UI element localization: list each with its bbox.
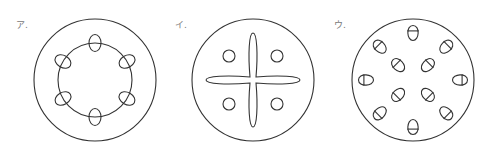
vascular-bundle: [453, 74, 468, 86]
bundle-outline: [408, 26, 418, 41]
vascular-bundle: [389, 85, 408, 104]
figure-i-cross-xylem: [206, 33, 300, 127]
figure-a-dicot-stem: ア.: [16, 19, 156, 141]
bundle-outline: [371, 104, 389, 122]
vascular-bundle: [407, 120, 419, 135]
figure-i-phloem-circles: [223, 50, 283, 110]
figure-a-label: ア.: [16, 20, 28, 30]
bundle-outline: [437, 104, 455, 122]
figure-u-monocot-stem: ウ.: [334, 19, 474, 141]
figure-a-outer-circle: [34, 19, 156, 141]
vascular-bundle: [437, 104, 456, 123]
figure-u-outer-circle: [352, 19, 474, 141]
phloem-circle: [271, 98, 283, 110]
vascular-bundle: [437, 37, 456, 56]
bundle-divider: [374, 111, 382, 119]
vascular-bundle: [389, 56, 408, 75]
figure-a-cambium-ring: [58, 43, 132, 117]
vascular-bundle: [370, 37, 389, 56]
bundle-divider: [425, 92, 433, 100]
phloem-circle: [223, 50, 235, 62]
bundle-outline: [453, 75, 468, 85]
bundle-outline: [389, 56, 407, 74]
phloem-circle: [223, 98, 235, 110]
bundle-outline: [437, 38, 455, 56]
bundle-outline: [419, 86, 437, 104]
vascular-bundle: [418, 85, 437, 104]
bundle-divider: [425, 60, 433, 68]
bundle-divider: [444, 111, 452, 119]
figure-u-label: ウ.: [334, 20, 346, 30]
phloem-circle: [271, 50, 283, 62]
figure-u-scattered-vascular-bundles: [359, 26, 468, 135]
bundle-divider: [393, 92, 401, 100]
bundle-divider: [374, 41, 382, 49]
figure-i-root: イ.: [175, 19, 314, 141]
vascular-bundle: [359, 74, 374, 86]
vascular-bundle: [418, 56, 437, 75]
bundle-outline: [419, 56, 437, 74]
bundle-divider: [393, 60, 401, 68]
stem-cross-section-diagram: ア. イ. ウ.: [0, 0, 490, 149]
figure-a-vascular-bundles: [53, 35, 138, 126]
vascular-bundle: [407, 26, 419, 41]
bundle-outline: [408, 120, 418, 135]
bundle-outline: [371, 38, 389, 56]
bundle-outline: [389, 86, 407, 104]
figure-i-label: イ.: [175, 20, 187, 30]
bundle-outline: [359, 75, 374, 85]
figure-i-outer-circle: [192, 19, 314, 141]
bundle-divider: [444, 41, 452, 49]
vascular-bundle: [370, 104, 389, 123]
